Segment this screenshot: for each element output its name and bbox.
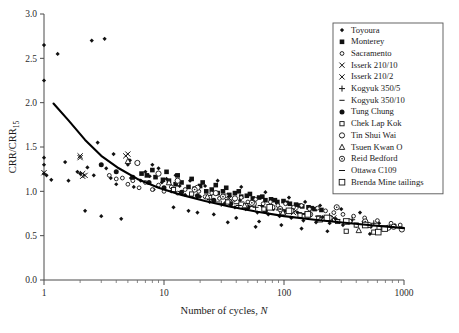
data-point — [150, 163, 154, 167]
data-point — [195, 211, 199, 215]
data-point — [200, 180, 205, 185]
legend-label: Tin Shui Wai — [351, 130, 397, 140]
y-tick-label: 1.5 — [25, 142, 37, 152]
x-tick-label: 100 — [277, 288, 292, 298]
scatter-chart: 0.00.51.01.52.02.53.01101001000 Number o… — [0, 0, 459, 333]
data-point — [107, 173, 111, 177]
data-point — [56, 52, 60, 56]
data-point — [139, 171, 144, 176]
y-axis-title: CRR/CRR15 — [7, 121, 21, 174]
data-point — [260, 194, 265, 199]
x-tick-label: 10 — [159, 288, 169, 298]
data-point — [42, 78, 46, 82]
data-point — [298, 213, 302, 217]
data-point — [49, 178, 53, 182]
legend-item[interactable]: Brenda Mine tailings — [339, 177, 424, 187]
data-point — [213, 191, 218, 196]
data-point — [336, 206, 338, 208]
data-point — [99, 162, 104, 167]
data-point — [213, 183, 218, 188]
x-axis-title: Number of cycles, N — [181, 305, 269, 316]
x-tick-label: 1000 — [395, 288, 414, 298]
data-point — [254, 225, 258, 229]
data-point — [114, 182, 118, 186]
y-tick-label: 2.0 — [25, 98, 37, 108]
data-point — [104, 166, 108, 170]
data-point — [263, 190, 267, 194]
data-point — [254, 197, 258, 201]
y-tick-label: 1.0 — [25, 187, 37, 197]
legend-marker — [340, 40, 345, 45]
data-point — [164, 170, 169, 175]
data-point — [398, 223, 402, 227]
legend-marker — [341, 158, 343, 160]
data-point — [268, 200, 272, 204]
data-point — [239, 185, 243, 189]
data-point — [83, 209, 87, 213]
data-point — [99, 214, 103, 218]
series-chek-lap-kok — [171, 187, 381, 234]
data-point — [135, 160, 140, 165]
data-point — [63, 160, 67, 164]
data-point — [308, 207, 312, 211]
data-point — [111, 152, 115, 156]
data-point — [150, 188, 154, 192]
data-point — [195, 193, 200, 198]
y-tick-label: 2.5 — [25, 54, 37, 64]
data-point — [103, 37, 107, 41]
legend-label: Kogyuk 350/10 — [351, 95, 405, 105]
data-point — [248, 192, 253, 197]
data-point — [324, 209, 328, 213]
data-point — [156, 171, 161, 176]
data-point — [236, 189, 241, 194]
data-point — [66, 179, 70, 183]
data-point — [183, 188, 187, 192]
data-point — [226, 200, 230, 204]
y-tick-label: 0.5 — [25, 231, 37, 241]
legend-label: Chek Lap Kok — [351, 118, 402, 128]
x-tick-label: 1 — [42, 288, 47, 298]
data-point — [286, 208, 292, 214]
data-point — [332, 211, 336, 215]
data-point — [132, 185, 136, 189]
data-point — [189, 177, 194, 182]
data-point — [239, 196, 243, 200]
data-point — [175, 173, 180, 178]
data-point — [212, 212, 216, 216]
data-point — [267, 204, 273, 210]
legend-label: Sacramento — [351, 48, 392, 58]
data-point — [273, 198, 278, 203]
legend-label: Monterey — [351, 36, 385, 46]
data-point — [145, 173, 150, 178]
data-point — [137, 186, 141, 190]
data-point — [120, 176, 124, 180]
y-tick-label: 0.0 — [25, 275, 37, 285]
data-point — [234, 216, 238, 220]
data-point — [287, 195, 291, 199]
data-point — [114, 169, 119, 174]
legend: ToyouraMontereySacramentoIsserk 210/10Is… — [333, 23, 443, 194]
data-point — [194, 189, 196, 191]
data-point — [341, 212, 345, 216]
data-point — [305, 212, 311, 218]
legend-label: Kogyuk 350/5 — [351, 83, 400, 93]
data-point — [42, 156, 46, 160]
data-point — [186, 209, 190, 213]
data-point — [90, 39, 94, 43]
legend-marker — [340, 52, 344, 56]
axis-labels: Number of cycles, NCRR/CRR15 — [7, 121, 268, 316]
data-point — [375, 219, 379, 223]
legend-label: Isserk 210/2 — [351, 71, 393, 81]
data-point — [85, 165, 89, 169]
data-point — [262, 207, 266, 211]
data-point — [232, 196, 237, 201]
data-point — [325, 229, 329, 233]
data-point — [171, 205, 175, 209]
data-point — [356, 227, 361, 232]
data-point — [224, 185, 229, 190]
data-point — [175, 178, 180, 183]
data-point — [300, 204, 304, 208]
legend-label: Toyoura — [351, 25, 380, 35]
data-point — [161, 178, 166, 183]
data-point — [299, 226, 303, 230]
